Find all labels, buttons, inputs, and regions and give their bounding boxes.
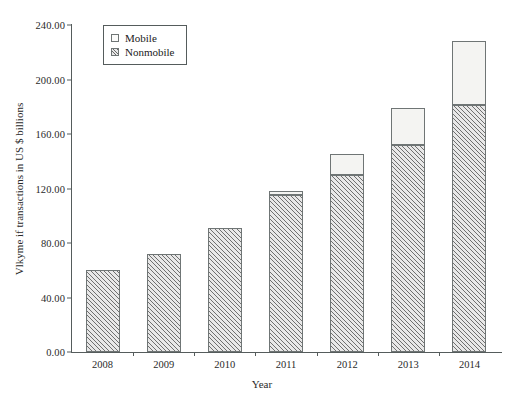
y-tick-mark <box>67 188 72 189</box>
legend-label-mobile: Mobile <box>125 31 157 45</box>
legend-item-mobile: Mobile <box>111 31 175 45</box>
x-tick-mark <box>317 352 318 356</box>
bar-group <box>269 25 303 352</box>
bar-segment-nonmobile <box>391 145 425 352</box>
y-axis-title: Vlkyme if transactions in US $ billions <box>13 102 25 274</box>
y-tick-mark <box>67 79 72 80</box>
bar-segment-nonmobile <box>147 254 181 352</box>
chart-container: Vlkyme if transactions in US $ billions … <box>0 0 524 403</box>
legend-label-nonmobile: Nonmobile <box>125 45 175 59</box>
x-tick-mark <box>133 352 134 356</box>
x-tick-mark <box>378 352 379 356</box>
plot-area: 0.0040.0080.00120.00160.00200.00240.00 2… <box>72 25 500 352</box>
x-axis-line <box>71 352 502 353</box>
y-tick-mark <box>67 25 72 26</box>
y-axis-title-wrapper: Vlkyme if transactions in US $ billions <box>10 25 28 352</box>
bar-group <box>208 25 242 352</box>
x-tick-mark <box>439 352 440 356</box>
x-tick-label: 2009 <box>153 359 174 370</box>
bar-group <box>391 25 425 352</box>
legend-item-nonmobile: Nonmobile <box>111 45 175 59</box>
bar-segment-nonmobile <box>86 270 120 352</box>
legend-swatch-mobile-icon <box>111 34 119 42</box>
bar-segment-nonmobile <box>330 175 364 352</box>
bar-group <box>147 25 181 352</box>
y-tick-mark <box>67 134 72 135</box>
x-tick-label: 2012 <box>337 359 358 370</box>
x-tick-mark <box>255 352 256 356</box>
bar-segment-mobile <box>269 191 303 195</box>
chart-legend: Mobile Nonmobile <box>103 25 187 65</box>
bar-segment-mobile <box>452 41 486 105</box>
bar-group <box>330 25 364 352</box>
y-tick-mark <box>67 297 72 298</box>
legend-swatch-nonmobile-icon <box>111 48 119 56</box>
bar-segment-mobile <box>330 154 364 174</box>
bar-segment-mobile <box>391 108 425 145</box>
x-axis-title: Year <box>0 378 524 390</box>
bar-segment-nonmobile <box>208 228 242 352</box>
bar-group <box>86 25 120 352</box>
x-tick-label: 2010 <box>214 359 235 370</box>
bar-segment-nonmobile <box>452 105 486 352</box>
bar-group <box>452 25 486 352</box>
x-tick-label: 2013 <box>398 359 419 370</box>
y-tick-mark <box>67 352 72 353</box>
y-tick-mark <box>67 243 72 244</box>
bar-segment-nonmobile <box>269 195 303 352</box>
x-tick-label: 2011 <box>276 359 297 370</box>
x-tick-mark <box>194 352 195 356</box>
x-tick-label: 2008 <box>92 359 113 370</box>
x-tick-label: 2014 <box>459 359 480 370</box>
